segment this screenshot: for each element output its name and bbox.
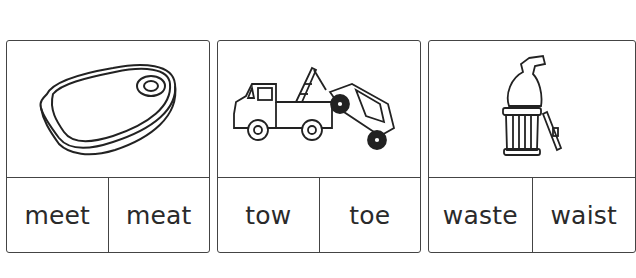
steak-icon [33, 54, 183, 164]
picture-area [218, 41, 420, 178]
word-choice-2[interactable]: toe [319, 178, 421, 252]
homophone-card-waste: waste waist [428, 40, 636, 253]
word-choices: tow toe [218, 178, 420, 252]
word-choices: waste waist [429, 178, 635, 252]
word-choice-2[interactable]: meat [108, 178, 210, 252]
word-choice-2[interactable]: waist [532, 178, 636, 252]
word-choices: meet meat [7, 178, 209, 252]
homophone-card-tow: tow toe [217, 40, 421, 253]
picture-area [429, 41, 635, 178]
word-choice-1[interactable]: waste [429, 178, 532, 252]
tow-truck-icon [232, 64, 407, 154]
word-choice-1[interactable]: meet [7, 178, 108, 252]
homophone-card-meat: meet meat [6, 40, 210, 253]
trash-can-icon [499, 54, 569, 164]
picture-area [7, 41, 209, 178]
word-choice-1[interactable]: tow [218, 178, 319, 252]
